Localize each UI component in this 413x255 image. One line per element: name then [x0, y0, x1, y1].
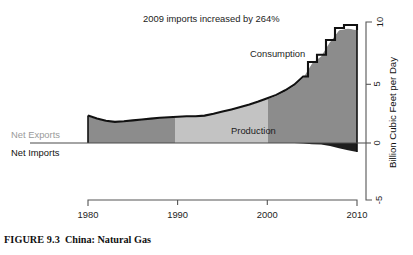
- figure-caption: FIGURE 9.3China: Natural Gas: [4, 234, 151, 245]
- y-tick-label-5: 5: [371, 82, 382, 87]
- x-axis-spine: [88, 200, 357, 206]
- y-axis-spine: [366, 22, 372, 200]
- axis-label-net-exports: Net Exports: [11, 130, 60, 139]
- series-label-consumption: Consumption: [250, 49, 305, 58]
- y-axis-title-text: Billion Cubic Feet per Day: [387, 57, 398, 168]
- y-axis-title: Billion Cubic Feet per Day: [383, 22, 401, 202]
- chart-title: 2009 imports increased by 264%: [143, 14, 280, 23]
- production-light-overlay: [175, 99, 268, 143]
- y-tick-label-0: 0: [371, 140, 382, 145]
- x-tick-label-2010: 2010: [347, 209, 368, 220]
- series-label-production: Production: [231, 126, 276, 135]
- net-imports-area: [294, 143, 357, 152]
- axis-label-net-imports: Net Imports: [11, 148, 59, 157]
- x-tick-label-1990: 1990: [167, 209, 188, 220]
- caption-figure-number: FIGURE 9.3: [4, 234, 60, 245]
- figure-container: 2009 imports increased by 264% Consumpti…: [0, 0, 413, 255]
- x-tick-label-2000: 2000: [257, 209, 278, 220]
- natural-gas-area-chart: [0, 0, 413, 228]
- x-tick-label-1980: 1980: [78, 209, 99, 220]
- caption-title: China: Natural Gas: [65, 234, 151, 245]
- chart-plot-area: 2009 imports increased by 264% Consumpti…: [0, 0, 413, 228]
